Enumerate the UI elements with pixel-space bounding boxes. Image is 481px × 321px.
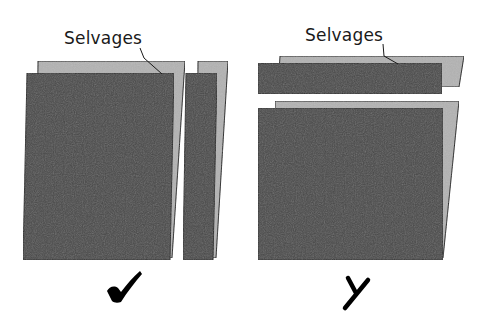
x-mark-icon bbox=[0, 0, 481, 321]
